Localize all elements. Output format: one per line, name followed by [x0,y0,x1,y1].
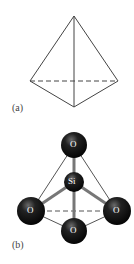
tetrahedron-outline [30,16,118,107]
silicate-tetrahedron-figure [0,0,134,264]
atom-label-top: O [70,139,77,149]
atom-label-bottom: O [70,225,77,235]
figure-a-label: (a) [12,102,23,113]
atom-label-left: O [27,205,34,215]
atom-label-right: O [113,205,120,215]
figure-b-label: (b) [12,239,24,250]
atom-label-si: Si [68,176,76,186]
